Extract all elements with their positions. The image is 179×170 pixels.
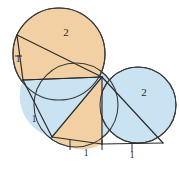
label-bottom-right-one: 1 <box>130 150 135 160</box>
label-lower-left-one: 1 <box>32 114 37 124</box>
label-right-two: 2 <box>141 86 147 98</box>
geometry-figure-container: 2 1 1 1 1 2 <box>0 0 179 170</box>
label-bottom-middle-one: 1 <box>84 148 89 158</box>
label-left-one: 1 <box>16 54 21 64</box>
label-top-two: 2 <box>63 26 69 38</box>
geometry-diagram: 2 1 1 1 1 2 <box>0 0 179 170</box>
